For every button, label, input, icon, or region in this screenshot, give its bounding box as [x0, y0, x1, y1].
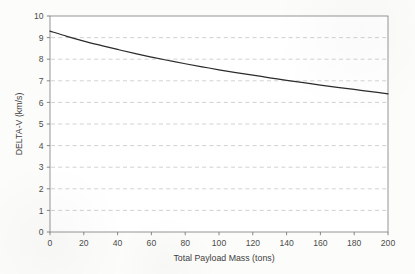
svg-text:60: 60 [147, 238, 157, 248]
svg-text:140: 140 [279, 238, 294, 248]
svg-text:40: 40 [113, 238, 123, 248]
x-tick-labels: 020406080100120140160180200 [48, 238, 396, 248]
svg-text:4: 4 [39, 141, 44, 151]
svg-text:8: 8 [39, 54, 44, 64]
svg-text:0: 0 [39, 227, 44, 237]
svg-text:10: 10 [34, 11, 44, 21]
svg-text:1: 1 [39, 206, 44, 216]
svg-text:5: 5 [39, 119, 44, 129]
svg-text:100: 100 [212, 238, 227, 248]
x-axis-title: Total Payload Mass (tons) [173, 253, 274, 263]
y-tick-labels: 012345678910 [34, 11, 44, 237]
svg-text:0: 0 [48, 238, 53, 248]
delta-v-line-chart: 012345678910 020406080100120140160180200… [0, 0, 415, 274]
y-tick-marks [47, 16, 50, 232]
x-tick-marks [50, 232, 388, 235]
svg-text:3: 3 [39, 162, 44, 172]
svg-text:120: 120 [246, 238, 261, 248]
y-axis-title: DELTA-V (km/s) [14, 93, 24, 156]
svg-text:20: 20 [79, 238, 89, 248]
svg-text:9: 9 [39, 33, 44, 43]
svg-text:2: 2 [39, 184, 44, 194]
svg-text:80: 80 [180, 238, 190, 248]
svg-text:7: 7 [39, 76, 44, 86]
svg-text:180: 180 [347, 238, 362, 248]
svg-text:200: 200 [381, 238, 396, 248]
svg-text:6: 6 [39, 98, 44, 108]
chart-figure: 012345678910 020406080100120140160180200… [0, 0, 415, 274]
svg-text:160: 160 [313, 238, 328, 248]
